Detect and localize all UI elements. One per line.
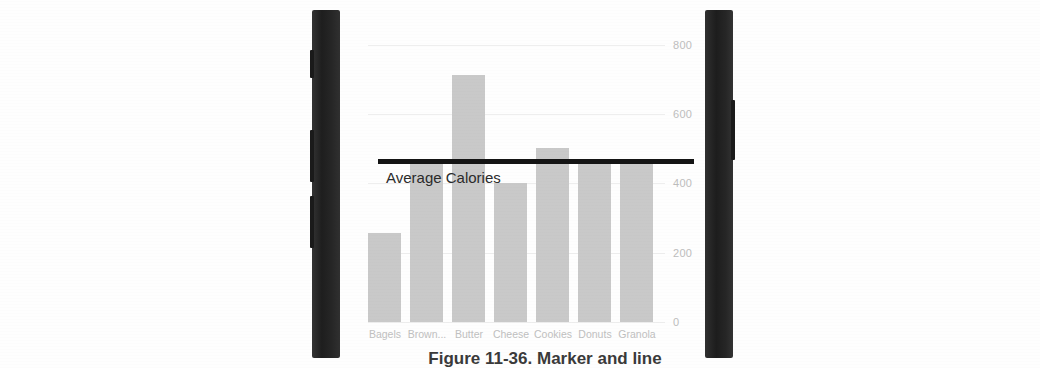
bar-cheese[interactable] — [494, 183, 527, 322]
x-label-donuts: Donuts — [572, 328, 618, 340]
volume-up-button[interactable] — [310, 130, 314, 182]
bar-butter[interactable] — [452, 75, 485, 322]
bar-granola[interactable] — [620, 162, 653, 322]
x-label-cheese: Cheese — [488, 328, 534, 340]
y-tick-label: 200 — [673, 247, 692, 259]
bar-cookies[interactable] — [536, 148, 569, 322]
y-tick-label: 0 — [673, 316, 679, 328]
bar-bagels[interactable] — [368, 233, 401, 322]
gridline-600 — [368, 114, 665, 115]
phone-bezel-left — [312, 10, 340, 358]
y-tick-label: 800 — [673, 39, 692, 51]
x-label-butter: Butter — [446, 328, 492, 340]
bar-donuts[interactable] — [578, 163, 611, 322]
gridline-0 — [368, 322, 665, 323]
silent-switch[interactable] — [310, 50, 314, 78]
x-label-cookies: Cookies — [530, 328, 576, 340]
x-label-granola: Granola — [614, 328, 660, 340]
phone-bezel-right — [705, 10, 733, 358]
power-button[interactable] — [731, 100, 735, 160]
average-calories-label: Average Calories — [386, 169, 501, 186]
average-calories-reference-line[interactable] — [378, 159, 694, 164]
x-label-brownies: Brown... — [404, 328, 450, 340]
figure-caption: Figure 11-36. Marker and line — [380, 349, 710, 368]
volume-down-button[interactable] — [310, 196, 314, 248]
x-label-bagels: Bagels — [362, 328, 408, 340]
gridline-800 — [368, 45, 665, 46]
bar-chart: 800 600 400 200 0 Bagels Brown... Butter… — [340, 8, 705, 360]
plot-area: 800 600 400 200 0 Bagels Brown... Butter… — [368, 45, 665, 322]
y-tick-label: 400 — [673, 177, 692, 189]
y-tick-label: 600 — [673, 108, 692, 120]
